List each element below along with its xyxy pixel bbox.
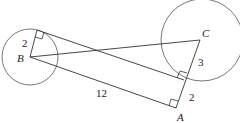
geometry-diagram: B C A 2 12 3 2 — [0, 0, 240, 123]
point-label-b: B — [17, 52, 24, 64]
circle-c — [161, 0, 240, 81]
label-segment-ab: 12 — [96, 87, 107, 99]
label-radius-b: 2 — [22, 37, 28, 49]
point-label-c: C — [202, 27, 210, 39]
segment-bc — [30, 40, 200, 57]
label-segment-c-tangent: 3 — [198, 56, 204, 68]
segment-ba — [30, 57, 176, 108]
segment-b-radius — [30, 30, 37, 57]
right-angle-mark-tangent — [177, 71, 187, 78]
tangent-line-top — [37, 30, 184, 80]
point-label-a: A — [176, 111, 184, 123]
label-segment-a-tangent: 2 — [189, 91, 195, 103]
